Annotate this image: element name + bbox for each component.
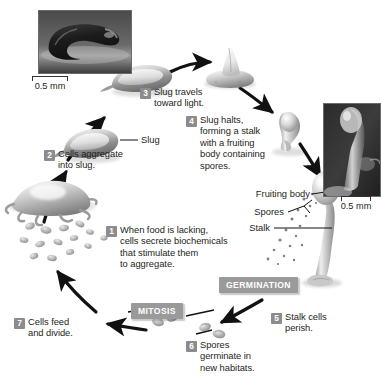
step-6: 6Sporesgerminate innew habitats. [186,339,284,373]
photo-slug [38,10,132,74]
step-1: 1When food is lacking,cells secrete bioc… [106,224,234,270]
label-stalk: Stalk [226,222,270,233]
step-2: 2Cells aggregateinto slug. [44,148,148,171]
label-fruiting-body: Fruiting body [226,188,310,199]
step-4-line-4: body containing [200,148,265,159]
step-3-line-2: toward light. [154,97,204,108]
scale-left: 0.5 mm [19,76,81,91]
scale-left-bar [32,76,68,81]
photo-fruiting-body [323,103,381,197]
step-3-number: 3 [140,88,151,99]
step-1-number: 1 [106,226,117,237]
step-3: 3Slug travelstoward light. [140,86,236,109]
step-5-number: 5 [271,313,282,324]
step-1-line-4: to aggregate. [120,258,175,269]
scale-right-bar [341,196,371,201]
label-slug: Slug [141,134,160,145]
step-5-line-2: perish. [285,322,313,333]
step-4-line-1: Slug halts, [200,114,243,125]
step-6-line-1: Spores [200,339,229,350]
scale-right-label: 0.5 mm [332,201,380,211]
step-4-line-3: with a fruiting [200,137,254,148]
step-1-line-1: When food is lacking, [120,224,208,235]
step-2-line-2: into slug. [58,159,95,170]
step-1-line-3: that stimulate them [120,247,198,258]
step-6-line-2: germinate in [200,350,251,361]
step-6-line-3: new habitats. [200,362,255,373]
label-spores: Spores [226,206,284,217]
scale-right: 0.5 mm [332,196,380,211]
scale-left-label: 0.5 mm [19,81,81,91]
step-2-line-1: Cells aggregate [58,148,123,159]
germinating-spores-illustration [198,322,226,340]
step-6-number: 6 [186,341,197,352]
step-3-line-1: Slug travels [154,86,202,97]
amoeba-cells [19,219,108,261]
step-7-line-2: and divide. [28,327,73,338]
photo-fruiting-body-image [324,104,380,196]
aggregation-mound-illustration [6,181,108,262]
step-7: 7Cells feedand divide. [14,316,118,339]
released-spores [267,193,318,265]
step-7-line-1: Cells feed [28,316,69,327]
badge-germination: GERMINATION [219,277,298,293]
step-4: 4Slug halts,forming a stalkwith a fruiti… [186,114,278,171]
badge-mitosis: MITOSIS [131,303,183,319]
step-4-number: 4 [186,116,197,127]
step-5-line-1: Stalk cells [285,311,327,322]
step-5: 5Stalk cellsperish. [271,311,361,334]
step-4-line-5: spores. [200,160,230,171]
step-1-line-2: cells secrete biochemicals [120,235,228,246]
step-7-number: 7 [14,318,25,329]
photo-slug-image [39,11,131,73]
step-2-number: 2 [44,150,55,161]
slime-mold-life-cycle-diagram: 0.5 mm [0,0,382,382]
step-4-line-2: forming a stalk [200,125,260,136]
mexican-hat-illustration [204,46,256,89]
